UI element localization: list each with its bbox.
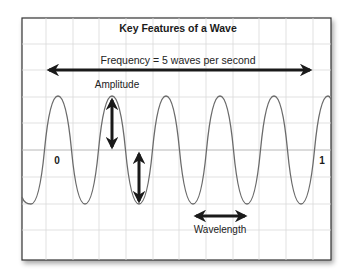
amplitude-label: Amplitude (95, 79, 140, 90)
axis-end-label: 1 (319, 155, 325, 166)
wavelength-label: Wavelength (194, 224, 246, 235)
wave-diagram: Key Features of a Wave Frequency = 5 wav… (0, 0, 347, 276)
axis-start-label: 0 (54, 155, 60, 166)
frequency-label: Frequency = 5 waves per second (101, 54, 256, 66)
diagram-title: Key Features of a Wave (119, 22, 237, 34)
